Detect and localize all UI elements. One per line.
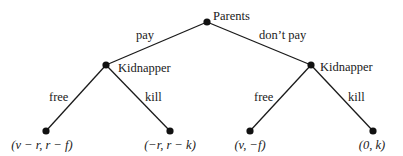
payoff-dontpay-kill: (0, k) bbox=[359, 138, 385, 152]
action-label-left-free: free bbox=[49, 90, 68, 104]
node-kidnapper-right bbox=[307, 61, 314, 68]
node-kidnapper-left bbox=[102, 61, 109, 68]
action-label-left-kill: kill bbox=[145, 90, 162, 104]
player-label-parents: Parents bbox=[213, 9, 250, 23]
edge-pay bbox=[106, 22, 207, 65]
action-label-pay: pay bbox=[136, 28, 154, 42]
payoff-dontpay-free: (v, −f) bbox=[234, 138, 265, 152]
action-label-right-kill: kill bbox=[348, 90, 365, 104]
terminal-dontpay-kill bbox=[369, 127, 376, 134]
terminal-pay-free bbox=[42, 127, 49, 134]
payoff-pay-kill: (−r, r − k) bbox=[144, 138, 196, 152]
action-label-dont-pay: don’t pay bbox=[259, 28, 306, 42]
terminal-dontpay-free bbox=[246, 127, 253, 134]
terminal-pay-kill bbox=[166, 127, 173, 134]
node-parents bbox=[203, 18, 210, 25]
player-label-kidnapper-left: Kidnapper bbox=[118, 61, 171, 75]
payoff-pay-free: (v − r, r − f) bbox=[11, 138, 72, 152]
game-tree-diagram bbox=[0, 0, 403, 156]
player-label-kidnapper-right: Kidnapper bbox=[320, 60, 373, 74]
action-label-right-free: free bbox=[254, 90, 273, 104]
